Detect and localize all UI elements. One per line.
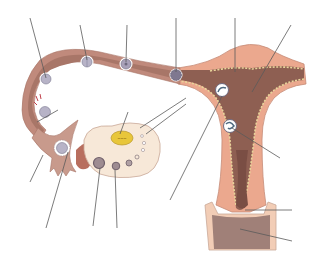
reproductive-tract-diagram: ~~~ bbox=[0, 0, 334, 261]
primary-follicle bbox=[126, 160, 132, 166]
ovary: ~~~ bbox=[84, 123, 160, 178]
zygote bbox=[40, 73, 53, 86]
two-cell-stage bbox=[81, 56, 94, 69]
diagram-canvas: ~~~ bbox=[0, 0, 334, 261]
uterus bbox=[178, 44, 306, 212]
svg-text:~~~: ~~~ bbox=[118, 135, 127, 141]
blastocyst bbox=[216, 84, 229, 97]
mature-follicle bbox=[94, 158, 105, 169]
implanting-blastocyst bbox=[224, 120, 237, 133]
primordial-follicle bbox=[135, 155, 139, 159]
secondary-follicle bbox=[112, 162, 120, 170]
